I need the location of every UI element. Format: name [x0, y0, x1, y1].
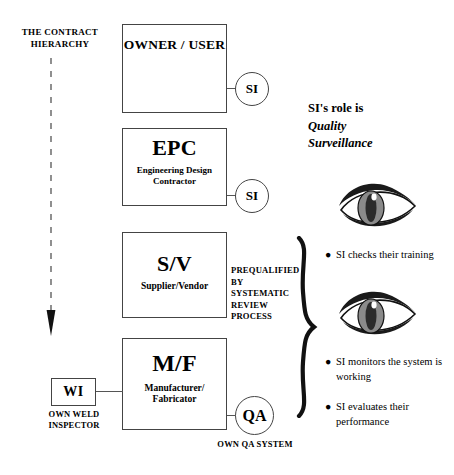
circle-qa: QA — [235, 396, 274, 435]
bullet-dot-icon: ● — [325, 355, 331, 370]
box-owner-user-title: OWNER / USER — [124, 37, 225, 53]
box-epc: EPC Engineering Design Contractor — [122, 128, 227, 206]
box-supplier-vendor: S/V Supplier/Vendor — [122, 232, 227, 318]
bullet-dot-icon: ● — [325, 400, 331, 415]
box-weld-inspector: WI — [51, 378, 96, 406]
hierarchy-caption: THE CONTRACT HIERARCHY — [8, 26, 112, 50]
bullet-si-evaluates-text: SI evaluates their performance — [325, 400, 449, 430]
bullet-si-monitors-text: SI monitors the system is working — [325, 355, 449, 385]
box-manufacturer-fabricator-title: M/F — [152, 351, 197, 375]
box-epc-title: EPC — [152, 137, 197, 159]
box-supplier-vendor-title: S/V — [157, 253, 192, 275]
box-manufacturer-fabricator: M/F Manufacturer/ Fabricator — [122, 338, 227, 430]
si-role-line3: Surveillance — [308, 136, 373, 150]
bullet-dot-icon: ● — [325, 248, 331, 263]
box-supplier-vendor-subtitle: Supplier/Vendor — [141, 281, 208, 292]
eye-icon — [337, 180, 419, 232]
box-manufacturer-fabricator-subtitle: Manufacturer/ Fabricator — [123, 383, 226, 405]
si-role-line2: Quality — [308, 119, 346, 133]
circle-si-epc: SI — [235, 179, 269, 213]
hierarchy-direction-arrow — [44, 58, 58, 336]
bullet-si-checks-text: SI checks their training — [325, 248, 449, 263]
prequalified-note: PREQUALIFIED BY SYSTEMATIC REVIEW PROCES… — [231, 265, 301, 323]
bullet-si-checks: ● SI checks their training — [325, 248, 449, 263]
bullet-si-monitors: ● SI monitors the system is working — [325, 355, 449, 385]
si-role-note: SI's role is Quality Surveillance — [308, 100, 448, 153]
box-epc-subtitle: Engineering Design Contractor — [123, 165, 226, 186]
grouping-brace — [292, 236, 318, 418]
circle-si-owner: SI — [235, 72, 269, 106]
qa-caption: OWN QA SYSTEM — [216, 439, 294, 450]
si-role-line1: SI's role is — [308, 101, 363, 115]
eye-icon — [337, 288, 419, 340]
bullet-si-evaluates: ● SI evaluates their performance — [325, 400, 449, 430]
connector-wi-to-mf — [96, 391, 123, 392]
box-owner-user: OWNER / USER — [122, 24, 227, 113]
diagram-canvas: THE CONTRACT HIERARCHY OWNER / USER EPC … — [0, 0, 454, 475]
weld-inspector-caption: OWN WELD INSPECTOR — [26, 409, 122, 430]
